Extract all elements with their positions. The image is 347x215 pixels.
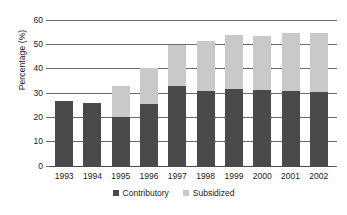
bar-segment-contributory-1993[interactable] — [55, 101, 73, 167]
bar-segment-contributory-1999[interactable] — [225, 89, 243, 167]
y-tick-label-60: 60 — [34, 15, 43, 24]
tick-mark-right-10 — [333, 141, 337, 142]
bar-segment-contributory-1994[interactable] — [83, 103, 101, 166]
bar-segment-contributory-2000[interactable] — [253, 90, 271, 167]
bar-segment-contributory-2001[interactable] — [282, 91, 300, 166]
tick-mark-right-60 — [333, 20, 337, 21]
bar-group[interactable] — [310, 21, 328, 167]
bar-segment-subsidized-1998[interactable] — [197, 41, 215, 91]
bar-group[interactable] — [140, 21, 158, 167]
legend-label: Subsidized — [193, 188, 235, 198]
bar-segment-subsidized-1996[interactable] — [140, 68, 158, 105]
stacked-bar-chart: Percentage (%) 6050403020100 19931994199… — [0, 0, 347, 215]
legend-label: Contributory — [123, 188, 169, 198]
bar-segment-contributory-1998[interactable] — [197, 91, 215, 166]
x-tick-label-1996: 1996 — [135, 170, 163, 182]
x-tick-label-1993: 1993 — [50, 170, 78, 182]
y-tick-label-40: 40 — [34, 64, 43, 73]
y-tick-label-10: 10 — [34, 137, 43, 146]
x-tick-label-1995: 1995 — [107, 170, 135, 182]
y-axis-title: Percentage (%) — [17, 0, 27, 130]
bar-segment-subsidized-1995[interactable] — [112, 86, 130, 116]
bar-group[interactable] — [168, 21, 186, 167]
bar-group[interactable] — [83, 21, 101, 167]
bar-segment-subsidized-1997[interactable] — [168, 45, 186, 86]
legend-item-subsidized[interactable]: Subsidized — [183, 188, 235, 198]
x-axis-tick-labels: 1993199419951996199719981999200020012002 — [50, 170, 333, 182]
bar-segment-subsidized-2002[interactable] — [310, 33, 328, 93]
bar-group[interactable] — [112, 21, 130, 167]
x-tick-label-1997: 1997 — [163, 170, 191, 182]
bar-group[interactable] — [55, 21, 73, 167]
tick-mark-right-0 — [333, 166, 337, 167]
tick-mark-right-20 — [333, 117, 337, 118]
legend-item-contributory[interactable]: Contributory — [113, 188, 169, 198]
y-tick-label-30: 30 — [34, 88, 43, 97]
bar-segment-contributory-1995[interactable] — [112, 117, 130, 167]
bar-segment-subsidized-2001[interactable] — [282, 33, 300, 91]
tick-mark-right-40 — [333, 68, 337, 69]
legend-swatch-subsidized-icon — [183, 190, 189, 196]
bar-segment-contributory-1997[interactable] — [168, 86, 186, 166]
bar-group[interactable] — [253, 21, 271, 167]
plot-area: 6050403020100 — [50, 21, 333, 167]
bar-segment-contributory-2002[interactable] — [310, 92, 328, 166]
bar-segment-contributory-1996[interactable] — [140, 104, 158, 166]
x-tick-label-2002: 2002 — [305, 170, 333, 182]
x-tick-label-2001: 2001 — [277, 170, 305, 182]
x-tick-label-1999: 1999 — [220, 170, 248, 182]
bar-segment-subsidized-2000[interactable] — [253, 36, 271, 90]
y-tick-label-0: 0 — [38, 161, 43, 170]
x-tick-label-1994: 1994 — [78, 170, 106, 182]
bar-group[interactable] — [282, 21, 300, 167]
bar-segment-subsidized-1999[interactable] — [225, 35, 243, 89]
bar-group[interactable] — [197, 21, 215, 167]
legend-swatch-contributory-icon — [113, 190, 119, 196]
y-tick-label-50: 50 — [34, 40, 43, 49]
y-tick-label-20: 20 — [34, 113, 43, 122]
tick-mark-right-30 — [333, 93, 337, 94]
x-tick-label-1998: 1998 — [192, 170, 220, 182]
chart-legend: ContributorySubsidized — [0, 188, 347, 198]
bar-group[interactable] — [225, 21, 243, 167]
x-tick-label-2000: 2000 — [248, 170, 276, 182]
bar-series-layer — [50, 21, 333, 167]
tick-mark-right-50 — [333, 44, 337, 45]
